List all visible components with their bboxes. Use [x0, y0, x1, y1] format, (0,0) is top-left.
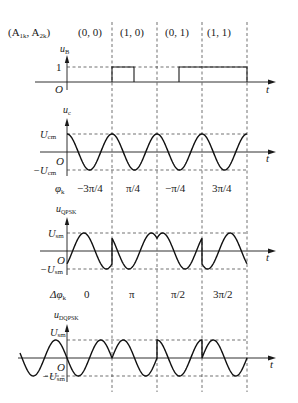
- origin-label: O: [57, 254, 65, 266]
- dqpsk-top-label: Usm: [50, 327, 66, 339]
- phase-value: π/4: [126, 182, 141, 194]
- pair-label-1: (0, 0): [78, 26, 102, 39]
- dphase-value: π/2: [171, 288, 185, 300]
- qpsk-y-label: uQPSK: [56, 203, 77, 215]
- carrier-y-label: uc: [63, 104, 71, 116]
- dphase-row-label: Δφk: [49, 288, 67, 302]
- phase-row-label: φk: [55, 182, 65, 196]
- origin-label: O: [55, 83, 63, 95]
- level-one-label: 1: [56, 61, 62, 73]
- carrier-bottom-label: −Ucm: [33, 165, 57, 177]
- pair-label-3: (0, 1): [165, 26, 189, 39]
- carrier-panel: uc Ucm O −Ucm t φk −3π/4 π/4 −π/4 3π/4: [33, 104, 276, 196]
- qpsk-dqpsk-diagram: (A1k, A2k) (0, 0) (1, 0) (0, 1) (1, 1) u…: [0, 0, 298, 403]
- phase-value: 3π/4: [212, 182, 232, 194]
- symbol-pair-title: (A1k, A2k): [8, 26, 50, 40]
- carrier-top-label: Ucm: [40, 129, 57, 141]
- dphase-value: 3π/2: [213, 288, 233, 300]
- phase-value: −3π/4: [77, 182, 103, 194]
- baseband-panel: uB 1 O t: [35, 43, 276, 95]
- qpsk-panel: uQPSK Usm O −Usm t Δφk 0 π π/2 3π/2: [40, 203, 276, 302]
- time-axis-label: t: [270, 358, 274, 370]
- phase-value: −π/4: [165, 182, 186, 194]
- symbol-pair-header: (A1k, A2k) (0, 0) (1, 0) (0, 1) (1, 1): [8, 26, 231, 40]
- qpsk-top-label: Usm: [48, 228, 64, 240]
- dphase-value: π: [129, 288, 135, 300]
- dphase-value: 0: [84, 288, 90, 300]
- pair-label-4: (1, 1): [207, 26, 231, 39]
- dqpsk-panel: uDQPSK Usm O −Usm t: [18, 309, 276, 383]
- pair-label-2: (1, 0): [120, 26, 144, 39]
- dqpsk-y-label: uDQPSK: [54, 309, 79, 321]
- origin-label: O: [56, 155, 64, 167]
- time-axis-label: t: [266, 83, 270, 95]
- origin-label: O: [57, 361, 65, 373]
- baseband-y-label: uB: [60, 43, 70, 55]
